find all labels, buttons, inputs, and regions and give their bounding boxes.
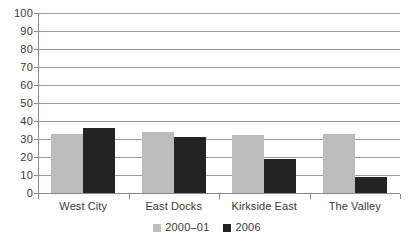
bar-chart: 1009080706050403020100 West CityEast Doc… bbox=[0, 0, 414, 242]
y-axis-tick-labels: 1009080706050403020100 bbox=[0, 13, 33, 193]
bar-group bbox=[310, 13, 401, 193]
y-tick-label-20: 20 bbox=[0, 152, 33, 163]
y-tick-label-100: 100 bbox=[0, 8, 33, 19]
legend-item[interactable]: 2000–01 bbox=[153, 222, 209, 233]
y-tick-label-60: 60 bbox=[0, 80, 33, 91]
y-tick-label-30: 30 bbox=[0, 134, 33, 145]
bars-layer bbox=[38, 13, 400, 193]
legend-label: 2006 bbox=[235, 222, 260, 233]
x-axis-label: East Docks bbox=[129, 200, 220, 213]
x-axis-ticks bbox=[38, 194, 400, 199]
y-tick-label-90: 90 bbox=[0, 26, 33, 37]
legend-label: 2000–01 bbox=[165, 222, 209, 233]
x-tick-mark bbox=[129, 194, 130, 199]
legend: 2000–012006 bbox=[0, 222, 414, 233]
bar bbox=[355, 177, 387, 193]
y-tick-label-80: 80 bbox=[0, 44, 33, 55]
y-tick-label-70: 70 bbox=[0, 62, 33, 73]
bar bbox=[264, 159, 296, 193]
y-tick-label-50: 50 bbox=[0, 98, 33, 109]
bar bbox=[142, 132, 174, 193]
x-axis-category-labels: West CityEast DocksKirkside EastThe Vall… bbox=[38, 200, 400, 213]
x-tick-mark bbox=[219, 194, 220, 199]
bar bbox=[174, 137, 206, 193]
legend-item[interactable]: 2006 bbox=[223, 222, 260, 233]
bar bbox=[323, 134, 355, 193]
x-axis-label: The Valley bbox=[310, 200, 401, 213]
bar-group bbox=[38, 13, 129, 193]
y-tick-label-40: 40 bbox=[0, 116, 33, 127]
plot-area bbox=[38, 13, 400, 193]
y-tick-label-0: 0 bbox=[0, 188, 33, 199]
y-tick-label-10: 10 bbox=[0, 170, 33, 181]
bar-group bbox=[219, 13, 310, 193]
bar-group bbox=[129, 13, 220, 193]
x-axis-label: West City bbox=[38, 200, 129, 213]
x-axis-label: Kirkside East bbox=[219, 200, 310, 213]
legend-swatch-icon bbox=[153, 224, 161, 232]
x-tick-mark bbox=[400, 194, 401, 199]
bar bbox=[51, 134, 83, 193]
x-tick-mark bbox=[310, 194, 311, 199]
legend-swatch-icon bbox=[223, 224, 231, 232]
bar bbox=[232, 135, 264, 193]
bar bbox=[83, 128, 115, 193]
x-tick-mark bbox=[38, 194, 39, 199]
